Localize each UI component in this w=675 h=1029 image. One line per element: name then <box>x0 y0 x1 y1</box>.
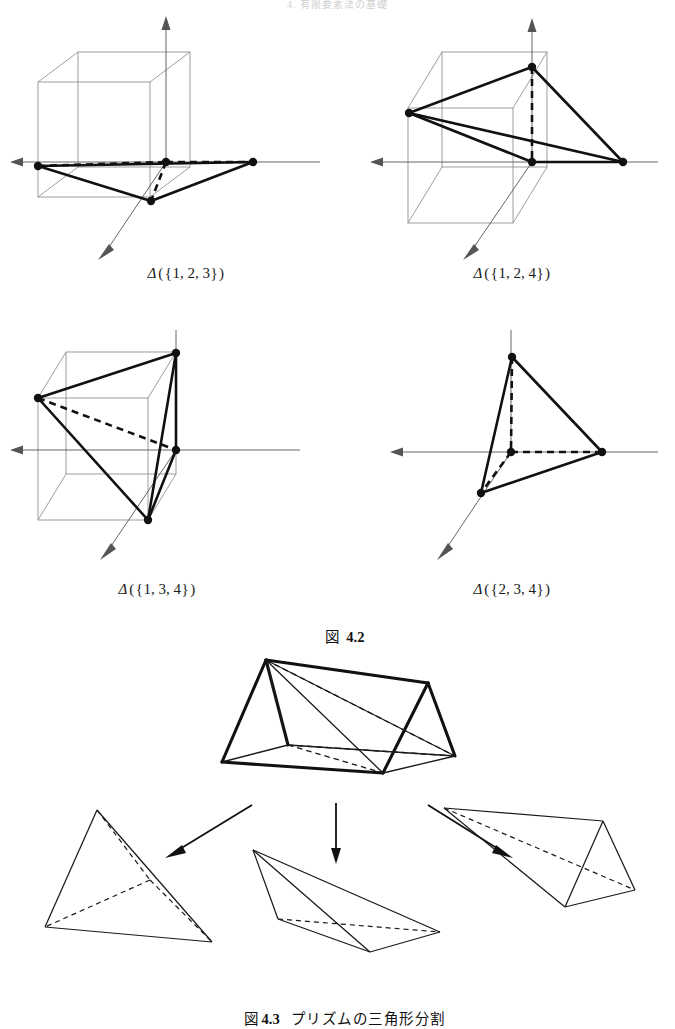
arrow-left <box>165 805 252 858</box>
figure-marker: 図 <box>244 1011 258 1027</box>
vertex-set: 1, 2, 4 <box>498 265 536 281</box>
prism-part-3-edges <box>444 808 635 907</box>
axes <box>10 330 300 560</box>
document-page: 4. 有限要素法の基礎 <box>0 0 675 1029</box>
tetra-123-label: Δ({1, 2, 3}) <box>10 248 340 299</box>
delta-symbol: Δ <box>473 581 483 597</box>
prism-part-1 <box>45 810 212 942</box>
prism-drawing <box>0 645 675 985</box>
tetra-123-drawing <box>10 10 340 260</box>
vertex-set: 2, 3, 4 <box>498 581 536 597</box>
brace-close: } <box>536 265 544 281</box>
axes <box>370 18 658 260</box>
tetra-124-label: Δ({1, 2, 4}) <box>336 248 666 299</box>
delta-symbol: Δ <box>473 265 483 281</box>
vertex-set: 1, 2, 3 <box>172 265 210 281</box>
tetra-134-drawing <box>10 330 340 585</box>
tetrahedron-edges <box>38 353 176 520</box>
brace-close: } <box>181 581 189 597</box>
brace-open: { <box>135 581 143 597</box>
prism-solid <box>222 660 455 773</box>
delta-symbol: Δ <box>119 581 129 597</box>
paren-close: ) <box>544 265 551 281</box>
tetrahedron-edges <box>409 67 623 162</box>
figure-marker: 図 <box>325 629 339 645</box>
vertex-set: 1, 3, 4 <box>144 581 182 597</box>
axes <box>390 330 658 560</box>
figure-number: 4.2 <box>346 629 364 645</box>
brace-close: } <box>536 581 544 597</box>
figure-tetra-134: Δ({1, 3, 4}) <box>10 330 340 585</box>
caption-figure-4-3: 図 4.3 プリズムの三角形分割 <box>0 990 675 1029</box>
tetra-234-drawing <box>336 330 666 585</box>
prism-part-2 <box>253 850 440 952</box>
paren-close: ) <box>544 581 551 597</box>
paren-close: ) <box>189 581 196 597</box>
tetra-124-drawing <box>336 10 666 260</box>
figure-tetra-234: Δ({2, 3, 4}) <box>336 330 666 585</box>
cube-wireframe <box>38 52 190 197</box>
paren-close: ) <box>218 265 225 281</box>
delta-symbol: Δ <box>147 265 157 281</box>
arrow-center <box>331 803 341 864</box>
figure-tetra-123: Δ({1, 2, 3}) <box>10 10 340 260</box>
figure-tetra-124: Δ({1, 2, 4}) <box>336 10 666 260</box>
brace-close: } <box>210 265 218 281</box>
figure-prism-decomposition <box>0 645 675 985</box>
tetrahedron-edges <box>38 162 253 201</box>
axes <box>10 16 320 260</box>
cube-wireframe <box>38 352 176 520</box>
figure-title: プリズムの三角形分割 <box>291 1011 446 1027</box>
tetrahedron-edges <box>481 357 602 493</box>
cube-wireframe <box>408 52 547 223</box>
tetrahedron-vertices <box>405 63 627 166</box>
figure-number: 4.3 <box>262 1011 280 1027</box>
